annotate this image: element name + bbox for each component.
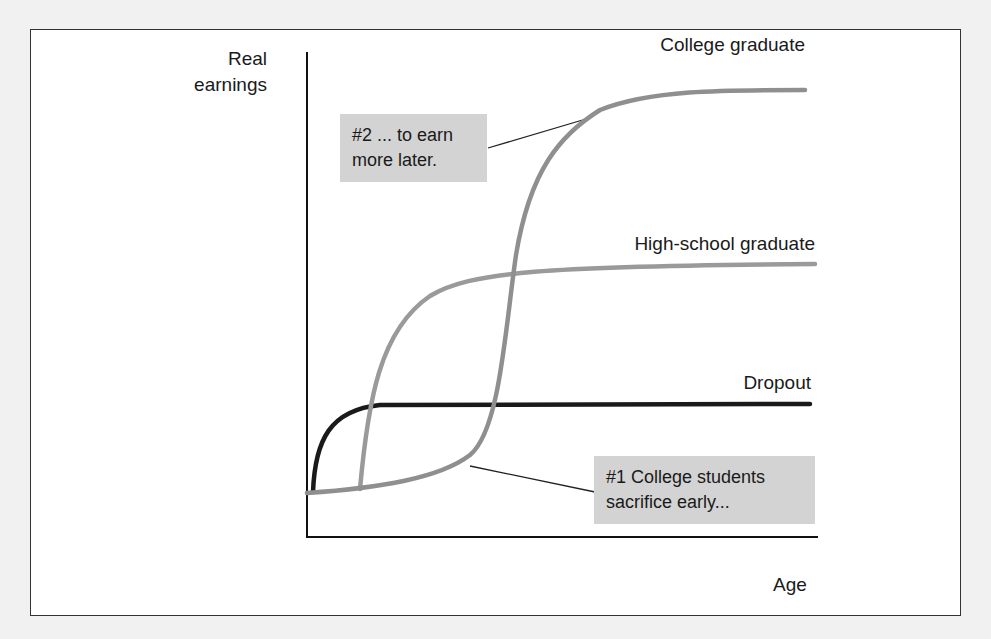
x-axis-label: Age bbox=[773, 572, 807, 598]
y-axis-label-line1: Real bbox=[194, 46, 267, 72]
earnings-plot bbox=[0, 0, 991, 639]
note-1-line1: #1 College students bbox=[606, 465, 803, 490]
highschool-label: High-school graduate bbox=[634, 231, 815, 257]
y-axis-label: Real earnings bbox=[194, 46, 267, 98]
note-2-line2: more later. bbox=[352, 148, 475, 173]
note-1-box: #1 College students sacrifice early... bbox=[594, 456, 815, 524]
dropout-label: Dropout bbox=[743, 370, 811, 396]
college-label: College graduate bbox=[660, 32, 805, 58]
note-2-line1: #2 ... to earn bbox=[352, 123, 475, 148]
note-2-box: #2 ... to earn more later. bbox=[340, 114, 487, 182]
note1-leader-line bbox=[470, 466, 595, 492]
y-axis-label-line2: earnings bbox=[194, 72, 267, 98]
note-1-line2: sacrifice early... bbox=[606, 490, 803, 515]
